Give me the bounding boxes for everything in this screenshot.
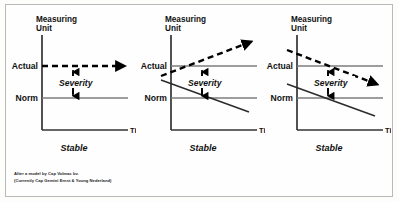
source-caption: After a model by Cap Volmac bv. (Current… bbox=[14, 171, 111, 184]
actual-axis-label: Actual bbox=[141, 61, 167, 71]
severity-label: Severity bbox=[59, 78, 94, 88]
y-axis-title-line1: Measuring bbox=[165, 15, 206, 24]
panel-bottom-label: Stable bbox=[315, 143, 342, 153]
panel-stable-falling: Measuring Unit Severity Actual Norm Time… bbox=[263, 8, 391, 158]
norm-trend-line bbox=[287, 84, 375, 116]
panel-stable-flat: Measuring Unit Severity Actual Norm Time… bbox=[8, 8, 136, 158]
panel-bottom-label: Stable bbox=[189, 143, 216, 153]
source-caption-line2: (Currently Cap Gemini Ernst & Young Nede… bbox=[14, 178, 111, 185]
severity-label: Severity bbox=[188, 78, 223, 88]
norm-axis-label: Norm bbox=[16, 93, 39, 103]
norm-axis-label: Norm bbox=[271, 93, 294, 103]
time-axis-label: Time bbox=[385, 126, 391, 135]
actual-axis-label: Actual bbox=[267, 61, 293, 71]
figure-root: Measuring Unit Severity Actual Norm Time… bbox=[0, 0, 398, 202]
y-axis-title-line1: Measuring bbox=[291, 15, 332, 24]
panel-stable-rising: Measuring Unit Severity Actual Norm Time… bbox=[137, 8, 265, 158]
actual-trend-dashed-arrow bbox=[161, 44, 245, 76]
norm-axis-label: Norm bbox=[145, 93, 168, 103]
y-axis-title-line2: Unit bbox=[165, 24, 181, 33]
panel-bottom-label: Stable bbox=[60, 143, 87, 153]
time-axis-label: Time bbox=[130, 126, 136, 135]
y-axis-title-line1: Measuring bbox=[36, 15, 77, 24]
y-axis-title-line2: Unit bbox=[291, 24, 307, 33]
severity-label: Severity bbox=[314, 78, 349, 88]
y-axis-title-line2: Unit bbox=[36, 24, 52, 33]
actual-axis-label: Actual bbox=[12, 61, 38, 71]
